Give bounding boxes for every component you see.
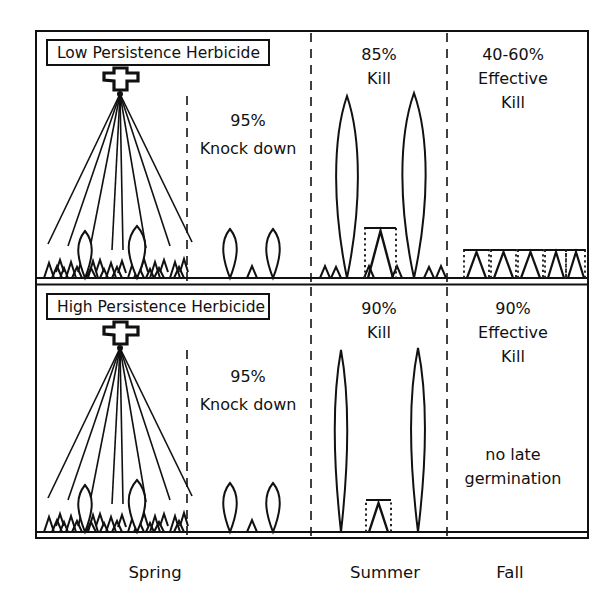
summer-label-bottom: Kill	[367, 323, 391, 342]
summer-percent-top: 85%	[361, 45, 397, 64]
season-label-spring: Spring	[128, 563, 181, 582]
season-label-summer: Summer	[350, 563, 420, 582]
summer-label-top: Kill	[367, 69, 391, 88]
fall-percent-top: 40-60%	[482, 45, 544, 64]
fall-percent-bottom: 90%	[495, 299, 531, 318]
fall-label-2-bottom: Kill	[501, 347, 525, 366]
season-label-fall: Fall	[496, 563, 523, 582]
high-persistence-label-box: High Persistence Herbicide	[47, 294, 269, 319]
fall-label-1-bottom: Effective	[478, 323, 548, 342]
knockdown-label-top: Knock down	[200, 139, 297, 158]
herbicide-persistence-diagram: Low Persistence Herbicide	[0, 0, 612, 605]
knockdown-percent-top: 95%	[230, 111, 266, 130]
low-persistence-label: Low Persistence Herbicide	[57, 44, 260, 62]
high-persistence-label: High Persistence Herbicide	[57, 298, 265, 316]
knockdown-percent-bottom: 95%	[230, 367, 266, 386]
fall-label-1-top: Effective	[478, 69, 548, 88]
low-persistence-label-box: Low Persistence Herbicide	[47, 40, 269, 65]
knockdown-label-bottom: Knock down	[200, 395, 297, 414]
note-line-1: no late	[485, 445, 540, 464]
note-line-2: germination	[465, 469, 562, 488]
fall-label-2-top: Kill	[501, 93, 525, 112]
summer-percent-bottom: 90%	[361, 299, 397, 318]
